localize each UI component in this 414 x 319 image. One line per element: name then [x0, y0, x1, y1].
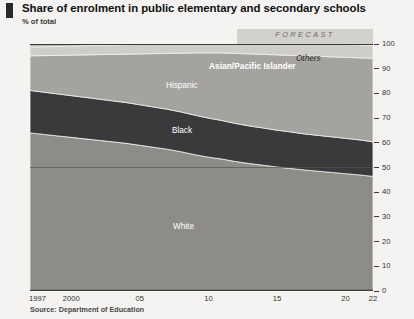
series-label-white: White [173, 222, 194, 231]
y-tick-mark [374, 118, 379, 119]
chart-title: Share of enrolment in public elementary … [22, 2, 366, 14]
plot-area [30, 44, 373, 291]
y-tick-label: 90 [382, 64, 390, 73]
y-tick-mark [374, 291, 379, 292]
chart-subtitle: % of total [22, 17, 56, 26]
series-label-black: Black [172, 126, 192, 135]
y-tick-mark [374, 93, 379, 94]
x-tick-label: 15 [273, 294, 281, 303]
x-tick-label: 10 [204, 294, 212, 303]
y-tick-mark [374, 167, 379, 168]
forecast-label: FORECAST [237, 30, 373, 39]
y-tick-mark [374, 44, 379, 45]
y-tick-mark [374, 192, 379, 193]
brand-marker [6, 3, 13, 18]
y-tick-label: 50 [382, 163, 390, 172]
x-tick-label: 2000 [63, 294, 80, 303]
y-tick-label: 0 [382, 286, 386, 295]
y-tick-mark [374, 68, 379, 69]
y-tick-label: 80 [382, 88, 390, 97]
x-tick-label: 20 [341, 294, 349, 303]
x-tick-label: 22 [369, 294, 377, 303]
chart-figure: Share of enrolment in public elementary … [0, 0, 414, 319]
x-tick-label: 1997 [29, 294, 46, 303]
y-tick-mark [374, 142, 379, 143]
y-tick-label: 40 [382, 187, 390, 196]
source-note: Source: Department of Education [30, 305, 144, 314]
y-tick-label: 70 [382, 113, 390, 122]
series-label-asian-pacific-islander: Asian/Pacific Islander [209, 61, 296, 71]
y-tick-label: 10 [382, 261, 390, 270]
series-label-others: Others [296, 54, 321, 63]
y-tick-label: 100 [382, 39, 395, 48]
y-tick-mark [374, 216, 379, 217]
stacked-area-svg [30, 44, 373, 291]
y-tick-label: 60 [382, 138, 390, 147]
x-tick-label: 05 [136, 294, 144, 303]
y-tick-label: 20 [382, 237, 390, 246]
y-tick-mark [374, 241, 379, 242]
series-label-hispanic: Hispanic [166, 81, 197, 90]
y-tick-mark [374, 266, 379, 267]
y-tick-label: 30 [382, 212, 390, 221]
